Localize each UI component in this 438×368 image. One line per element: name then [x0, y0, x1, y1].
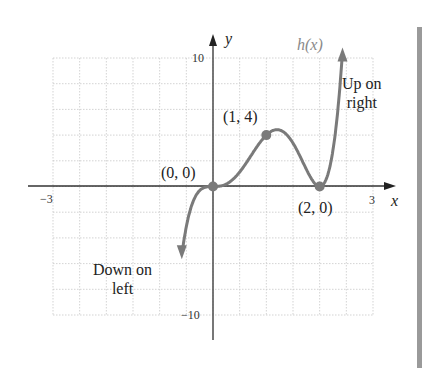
function-curve: [182, 56, 343, 251]
point-marker: [315, 182, 325, 192]
x-tick-min: −3: [40, 193, 53, 205]
annotation-up-on-right: Up on right: [342, 74, 382, 112]
annotation-down-line1: Down on: [93, 260, 152, 279]
point-label-two-zero: (2, 0): [298, 200, 333, 216]
x-axis-label: x: [391, 193, 398, 209]
chart-canvas: [0, 0, 438, 368]
function-label: h(x): [297, 37, 323, 53]
annotation-down-on-left: Down on left: [93, 260, 152, 298]
point-marker: [208, 182, 218, 192]
point-marker: [261, 130, 271, 140]
annotation-up-line1: Up on: [342, 74, 382, 93]
x-tick-max: 3: [369, 194, 375, 206]
annotation-down-line2: left: [93, 279, 152, 298]
y-tick-min: −10: [181, 309, 200, 321]
x-axis-arrow-icon: [384, 182, 396, 190]
down-arrow-icon: [177, 245, 187, 259]
y-axis-label: y: [225, 31, 232, 47]
y-tick-max: 10: [192, 52, 204, 64]
point-label-origin: (0, 0): [161, 165, 196, 181]
up-arrow-icon: [338, 48, 348, 62]
point-label-one-four: (1, 4): [223, 109, 258, 125]
annotation-up-line2: right: [342, 93, 382, 112]
y-axis-arrow-icon: [209, 34, 217, 46]
function-name: h(x): [297, 36, 323, 53]
page-edge-bar: [417, 27, 422, 368]
